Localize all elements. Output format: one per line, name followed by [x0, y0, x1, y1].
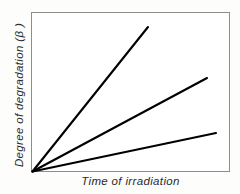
plot-frame	[31, 12, 230, 172]
x-axis-label: Time of irradiation	[31, 175, 230, 187]
figure-container: Degree of degradation (β ) Time of irrad…	[0, 0, 240, 194]
y-axis-label: Degree of degradation (β )	[8, 15, 30, 175]
